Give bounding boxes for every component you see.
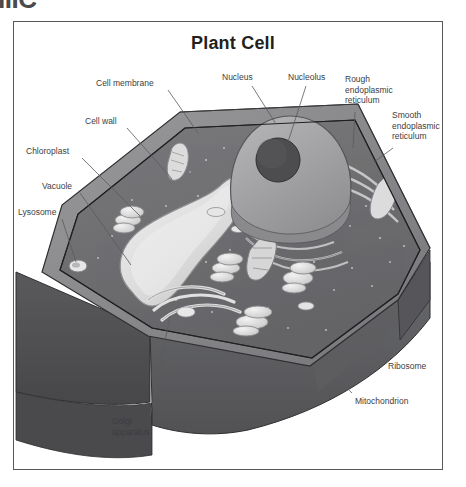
label-cell-wall: Cell wall bbox=[85, 116, 117, 127]
label-nucleolus: Nucleolus bbox=[288, 72, 325, 83]
label-chloroplast: Chloroplast bbox=[26, 146, 69, 157]
label-vacuole: Vacuole bbox=[42, 181, 72, 192]
label-rough-endoplasmic-reticulum: Rough endoplasmic reticulum bbox=[345, 74, 393, 106]
figure-page: IIIC Plant Cell bbox=[0, 0, 466, 487]
label-cell-membrane: Cell membrane bbox=[96, 78, 154, 89]
label-nucleus: Nucleus bbox=[222, 72, 253, 83]
label-mitochondrion: Mitochondrion bbox=[355, 396, 408, 407]
label-ribosome: Ribosome bbox=[388, 361, 426, 372]
label-golgi-apparatus: Golgi apparatus bbox=[112, 416, 150, 437]
label-smooth-endoplasmic-reticulum: Smooth endoplasmic reticulum bbox=[392, 110, 440, 142]
label-lysosome: Lysosome bbox=[18, 207, 56, 218]
